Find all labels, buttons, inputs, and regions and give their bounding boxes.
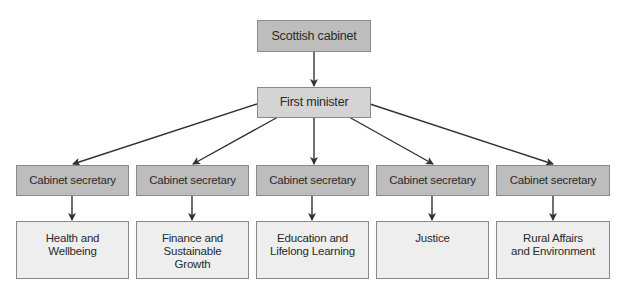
department-label: Rural Affairs and Environment: [511, 232, 595, 258]
department-rural-affairs: Rural Affairs and Environment: [496, 221, 610, 279]
node-label: First minister: [280, 96, 349, 109]
department-label: Finance and Sustainable Growth: [162, 232, 223, 271]
department-justice: Justice: [376, 221, 489, 279]
node-label: Cabinet secretary: [510, 174, 597, 187]
cabinet-secretary-node-2: Cabinet secretary: [136, 165, 249, 196]
department-health-wellbeing: Health and Wellbeing: [16, 221, 129, 279]
cabinet-secretary-node-5: Cabinet secretary: [496, 165, 610, 196]
node-label: Cabinet secretary: [149, 174, 236, 187]
node-label: Scottish cabinet: [271, 30, 356, 43]
cabinet-secretary-node-3: Cabinet secretary: [256, 165, 369, 196]
department-finance-growth: Finance and Sustainable Growth: [136, 221, 249, 279]
first-minister-node: First minister: [257, 87, 371, 118]
department-label: Health and Wellbeing: [46, 232, 100, 258]
cabinet-secretary-node-1: Cabinet secretary: [16, 165, 129, 196]
scottish-cabinet-node: Scottish cabinet: [257, 20, 371, 52]
department-label: Education and Lifelong Learning: [270, 232, 355, 258]
node-label: Cabinet secretary: [269, 174, 356, 187]
node-label: Cabinet secretary: [29, 174, 116, 187]
cabinet-secretary-node-4: Cabinet secretary: [376, 165, 489, 196]
department-label: Justice: [415, 232, 449, 245]
node-label: Cabinet secretary: [389, 174, 476, 187]
department-education-learning: Education and Lifelong Learning: [256, 221, 369, 279]
